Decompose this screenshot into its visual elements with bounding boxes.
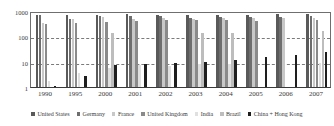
legend-item[interactable]: Brazil — [220, 111, 241, 118]
bar-group — [302, 13, 331, 87]
legend-swatch-icon — [112, 112, 116, 116]
x-axis-tick-label: 2004 — [219, 90, 233, 98]
bar — [114, 65, 117, 87]
bar — [78, 73, 81, 87]
bar-group — [272, 13, 302, 87]
bar — [204, 62, 207, 87]
bar — [84, 76, 87, 87]
plot-area — [30, 12, 331, 88]
y-axis-tick-label: 10 — [0, 59, 28, 66]
bar — [144, 64, 147, 87]
bar-group — [31, 13, 61, 87]
x-axis-tick-label: 2005 — [249, 90, 263, 98]
legend-label: Germany — [83, 111, 105, 118]
x-axis-tick-label: 2007 — [309, 90, 323, 98]
bar — [48, 81, 51, 87]
x-axis-tick-label: 2000 — [98, 90, 112, 98]
bar — [265, 57, 268, 87]
chart-container: 1101001000 19901995200020012002200320042… — [0, 0, 334, 126]
legend-swatch-icon — [220, 112, 224, 116]
bar — [174, 63, 177, 87]
bar-group — [61, 13, 91, 87]
bar-group — [212, 13, 242, 87]
bar-group — [182, 13, 212, 87]
legend-swatch-icon — [77, 112, 81, 116]
bar-group — [151, 13, 181, 87]
y-axis-tick-label: 1 — [0, 85, 28, 92]
legend-swatch-icon — [248, 112, 252, 116]
bar — [255, 21, 258, 87]
bar — [45, 24, 48, 87]
chart-legend: United StatesGermanyFranceUnited Kingdom… — [0, 107, 334, 121]
bar — [138, 65, 141, 87]
bar — [54, 86, 57, 87]
legend-label: China + Hong Kong — [254, 111, 303, 118]
bar-group — [91, 13, 121, 87]
legend-label: United Kingdom — [147, 111, 188, 118]
y-axis-tick-label: 1000 — [0, 9, 28, 16]
chart-plot-region: 1101001000 19901995200020012002200320042… — [0, 0, 334, 104]
bar — [295, 55, 298, 87]
legend-item[interactable]: India — [195, 111, 213, 118]
x-axis-tick-label: 1995 — [68, 90, 82, 98]
bar — [168, 66, 171, 87]
legend-label: Brazil — [226, 111, 241, 118]
legend-item[interactable]: United Kingdom — [141, 111, 188, 118]
legend-item[interactable]: United States — [31, 111, 69, 118]
x-axis: 1990199520002001200220032004200520062007 — [30, 89, 331, 101]
bar — [282, 18, 285, 87]
legend-label: United States — [37, 111, 69, 118]
bar-group — [242, 13, 272, 87]
x-axis-tick-label: 2002 — [158, 90, 172, 98]
x-axis-tick-label: 2006 — [279, 90, 293, 98]
legend-swatch-icon — [195, 112, 199, 116]
bar — [325, 52, 328, 87]
legend-swatch-icon — [31, 112, 35, 116]
legend-item[interactable]: France — [112, 111, 134, 118]
bar-group — [121, 13, 151, 87]
legend-swatch-icon — [141, 112, 145, 116]
bar — [234, 60, 237, 87]
y-axis-tick-label: 100 — [0, 34, 28, 41]
y-axis: 1101001000 — [0, 12, 30, 88]
legend-label: India — [201, 111, 213, 118]
x-axis-tick-label: 2001 — [128, 90, 142, 98]
x-axis-tick-label: 1990 — [38, 90, 52, 98]
x-axis-tick-label: 2003 — [189, 90, 203, 98]
legend-item[interactable]: China + Hong Kong — [248, 111, 303, 118]
legend-item[interactable]: Germany — [77, 111, 105, 118]
legend-label: France — [118, 111, 134, 118]
